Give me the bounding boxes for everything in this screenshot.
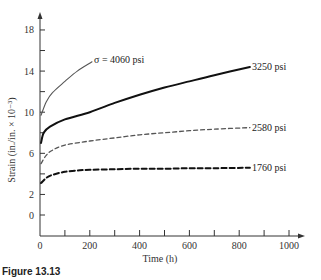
x-tick-label: 600	[182, 240, 197, 251]
creep-chart: 026101418 02004006008001000 Time (h) Str…	[0, 0, 321, 280]
y-axis-arrow-icon	[38, 12, 43, 19]
y-tick-label: 6	[29, 148, 34, 159]
series-label-1760: 1760 psi	[252, 162, 286, 173]
x-tick-label: 800	[232, 240, 247, 251]
curve-3250psi	[41, 67, 250, 143]
x-tick-label: 200	[82, 240, 97, 251]
curve-1760psi	[41, 168, 250, 183]
x-axis-title: Time (h)	[143, 253, 178, 265]
y-tick-label: 2	[29, 189, 34, 200]
x-axis-arrow-icon	[298, 234, 305, 239]
x-tick-label: 1000	[279, 240, 299, 251]
figure-caption: Figure 13.13	[2, 266, 60, 277]
x-ticks: 02004006008001000	[38, 230, 300, 251]
y-tick-label: 10	[24, 107, 34, 118]
x-tick-label: 0	[38, 240, 43, 251]
curves	[41, 62, 250, 183]
x-tick-label: 400	[132, 240, 147, 251]
y-tick-label: 0	[29, 210, 34, 221]
series-label-2580: 2580 psi	[252, 122, 286, 133]
series-label-3250: 3250 psi	[252, 61, 286, 72]
y-ticks: 026101418	[24, 24, 45, 220]
curve-2580psi	[41, 128, 250, 164]
y-tick-label: 18	[24, 24, 34, 35]
curve-4060psi	[41, 62, 92, 116]
y-tick-label: 14	[24, 66, 34, 77]
y-axis-title: Strain (in./in. × 10⁻³)	[6, 97, 18, 182]
series-label-4060: σ = 4060 psi	[94, 54, 144, 65]
